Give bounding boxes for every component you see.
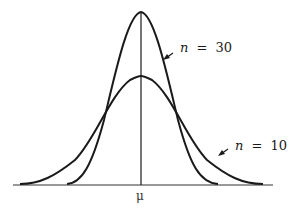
sampling-distribution-diagram: n = 30 n = 10 μ	[0, 0, 296, 210]
label-n10: n = 10	[235, 138, 287, 153]
arrowhead-n30-icon	[163, 54, 170, 60]
mean-label: μ	[136, 189, 144, 203]
curve-n30	[67, 12, 218, 184]
label-n30: n = 30	[180, 40, 232, 55]
arrowhead-n10-icon	[218, 150, 225, 156]
